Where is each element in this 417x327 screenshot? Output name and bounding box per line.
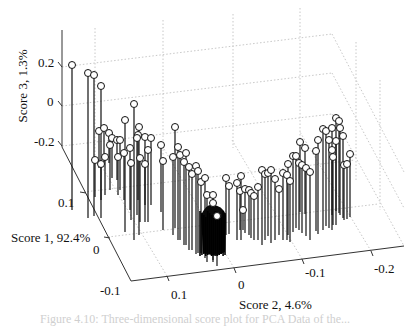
data-point-marker — [127, 145, 134, 152]
data-point-marker — [137, 155, 144, 162]
data-point-marker — [223, 175, 230, 182]
score2-axis-label: Score 2, 4.6% — [239, 298, 312, 311]
dense-cluster — [200, 205, 226, 256]
data-point-marker — [69, 62, 76, 69]
data-point-marker — [297, 139, 304, 146]
data-point-marker — [145, 147, 152, 154]
score1-tick-0.1: 0.1 — [58, 196, 74, 209]
data-point-marker — [307, 169, 314, 176]
data-point-marker — [337, 125, 344, 132]
grid-lines — [62, 8, 404, 276]
data-point-marker — [170, 154, 177, 161]
data-point-marker — [98, 83, 105, 90]
data-point-marker — [234, 180, 241, 187]
score2-tick-neg0.1: -0.1 — [305, 266, 326, 279]
data-point-marker — [302, 145, 309, 152]
data-point-marker — [238, 173, 245, 180]
data-point-marker — [134, 135, 141, 142]
data-point-marker — [117, 137, 124, 144]
data-point-marker — [172, 124, 179, 131]
data-point-marker — [313, 148, 320, 155]
data-point-marker — [255, 184, 262, 191]
z-tick-0: 0 — [47, 95, 54, 108]
data-point-marker — [326, 137, 333, 144]
data-point-marker — [98, 161, 105, 168]
data-point-marker — [276, 186, 283, 193]
data-point-marker — [330, 154, 337, 161]
score1-tick-0: 0 — [93, 243, 100, 256]
data-point-marker — [315, 137, 322, 144]
data-point-marker — [131, 101, 138, 108]
data-point-marker — [240, 207, 247, 214]
data-point-marker — [226, 183, 233, 190]
data-point-marker — [251, 193, 258, 200]
data-point-marker — [148, 135, 155, 142]
data-point-marker — [91, 72, 98, 79]
data-markers — [69, 62, 354, 220]
score2-axis — [131, 246, 404, 281]
data-point-marker — [340, 133, 347, 140]
data-point-marker — [186, 164, 193, 171]
data-point-marker — [347, 151, 354, 158]
data-point-marker — [336, 118, 343, 125]
data-point-marker — [214, 213, 221, 220]
score2-tick-0.1: 0.1 — [171, 288, 187, 301]
data-point-marker — [210, 192, 217, 199]
data-point-marker — [329, 125, 336, 132]
data-point-marker — [272, 176, 279, 183]
data-point-marker — [122, 117, 129, 124]
data-point-marker — [285, 161, 292, 168]
data-point-marker — [142, 161, 149, 168]
data-point-marker — [136, 124, 143, 131]
data-point-marker — [329, 147, 336, 154]
score2-tick-neg0.2: -0.2 — [374, 262, 395, 275]
data-point-marker — [344, 161, 351, 168]
data-point-marker — [268, 167, 275, 174]
data-point-marker — [160, 158, 167, 165]
data-point-marker — [210, 200, 217, 207]
z-axis-label: Score 3, 1.3% — [15, 31, 31, 141]
score2-tick-0: 0 — [238, 278, 245, 291]
data-point-marker — [287, 178, 294, 185]
data-point-marker — [175, 144, 182, 151]
data-point-marker — [158, 142, 165, 149]
data-point-marker — [128, 160, 135, 167]
z-tick-neg0.2: -0.2 — [34, 135, 55, 148]
figure-caption-partial: Figure 4.10: Three-dimensional score plo… — [40, 312, 350, 327]
data-point-marker — [107, 142, 114, 149]
data-point-marker — [183, 150, 190, 157]
z-tick-0.2: 0.2 — [38, 56, 54, 69]
score1-axis-label: Score 1, 92.4% — [11, 231, 90, 244]
data-point-marker — [121, 150, 128, 157]
data-point-marker — [102, 154, 109, 161]
score1-tick-neg0.1: -0.1 — [100, 284, 121, 297]
data-point-marker — [333, 138, 340, 145]
data-point-marker — [202, 175, 209, 182]
data-point-marker — [195, 168, 202, 175]
data-point-marker — [293, 153, 300, 160]
